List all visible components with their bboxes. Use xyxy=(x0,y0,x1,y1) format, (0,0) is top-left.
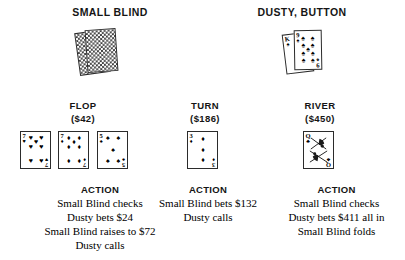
card-back-icon xyxy=(85,28,119,73)
pot-size-river: ($450) xyxy=(265,113,375,125)
playing-card-nine-spades: 9 ♠ ♠ ♠ ♠ ♠ ♠ ♠ ♠ ♠ ♠ 9 ♠ xyxy=(294,30,323,70)
card-corner-bottom: Q ♣ xyxy=(326,156,331,168)
player-label-small-blind: SMALL BLIND xyxy=(30,6,190,19)
action-label: ACTION xyxy=(148,184,268,195)
spade-icon: ♠ xyxy=(311,57,315,64)
action-line: Dusty calls xyxy=(148,210,268,224)
player-block-small-blind: SMALL BLIND xyxy=(30,6,190,87)
hole-cards-small-blind xyxy=(30,25,190,87)
heart-icon: ♥ xyxy=(29,134,33,141)
card-corner-bottom: 7 ♥ xyxy=(45,156,48,168)
card-corner-bottom: 3 ♦ xyxy=(212,156,215,168)
spade-icon: ♠ xyxy=(316,56,319,62)
diamond-icon: ♦ xyxy=(67,144,71,151)
playing-card-five-spades: 5 ♠ ♠ ♠ ♠ ♠ ♠ 5 ♠ xyxy=(97,131,128,169)
heart-icon: ♥ xyxy=(34,139,38,146)
street-label-turn: TURN xyxy=(155,100,255,112)
heart-icon: ♥ xyxy=(45,156,48,162)
street-label-flop: FLOP xyxy=(18,100,148,112)
card-corner-bottom: 5 ♠ xyxy=(122,156,125,168)
diamond-icon: ♦ xyxy=(78,144,82,151)
diamond-icon: ♦ xyxy=(67,157,71,164)
action-line: Small Blind raises to $72 xyxy=(0,224,200,238)
spade-icon: ♠ xyxy=(122,156,125,162)
spade-icon: ♠ xyxy=(111,147,115,154)
diamond-icon: ♦ xyxy=(67,134,71,141)
board-cards-river: Q ♣ xyxy=(265,130,375,172)
pot-size-flop: ($42) xyxy=(18,113,148,125)
playing-card-seven-diamonds: 7 ♦ ♦ ♦ ♦ ♦ ♦ ♦ ♦ 7 ♦ xyxy=(58,131,89,169)
street-block-flop: FLOP ($42) 7 ♥ ♥ ♥ ♥ ♥ ♥ ♥ ♥ 7 xyxy=(18,100,148,172)
diamond-icon: ♦ xyxy=(201,157,205,164)
board-cards-turn: 3 ♦ ♦ ♦ ♦ 3 ♦ xyxy=(155,130,255,172)
playing-card-three-diamonds: 3 ♦ ♦ ♦ ♦ 3 ♦ xyxy=(187,131,218,169)
spade-icon: ♠ xyxy=(106,135,110,142)
hole-cards-dusty: K ♠ K ♠ 9 ♠ ♠ ♠ ♠ ♠ ♠ xyxy=(222,25,382,87)
playing-card-queen-clubs: Q ♣ xyxy=(303,131,334,169)
diamond-icon: ♦ xyxy=(72,139,76,146)
action-line: Dusty calls xyxy=(0,238,200,252)
spade-icon: ♠ xyxy=(106,157,110,164)
card-corner-top: K ♠ xyxy=(284,36,290,48)
street-label-river: RIVER xyxy=(265,100,375,112)
poker-hand-diagram: SMALL BLIND DUSTY, BUTTON K ♠ K ♠ xyxy=(0,0,405,260)
spade-icon: ♠ xyxy=(302,57,306,64)
action-block-turn: ACTION Small Blind bets $132 Dusty calls xyxy=(148,184,268,224)
action-line: Dusty bets $411 all in xyxy=(268,210,405,224)
card-corner-bottom: 9 ♠ xyxy=(316,56,319,68)
board-cards-flop: 7 ♥ ♥ ♥ ♥ ♥ ♥ ♥ ♥ 7 ♥ xyxy=(18,130,148,172)
diamond-icon: ♦ xyxy=(83,156,86,162)
action-line: Small Blind folds xyxy=(268,224,405,238)
card-corner-bottom: 7 ♦ xyxy=(83,156,86,168)
playing-card-seven-hearts: 7 ♥ ♥ ♥ ♥ ♥ ♥ ♥ ♥ 7 ♥ xyxy=(20,131,51,169)
diamond-icon: ♦ xyxy=(78,157,82,164)
diamond-icon: ♦ xyxy=(201,147,205,154)
action-label: ACTION xyxy=(268,184,405,195)
street-block-river: RIVER ($450) Q ♣ xyxy=(265,100,375,172)
heart-icon: ♥ xyxy=(29,157,33,164)
heart-icon: ♥ xyxy=(39,134,43,141)
diamond-icon: ♦ xyxy=(212,156,215,162)
heart-icon: ♥ xyxy=(29,144,33,151)
street-block-turn: TURN ($186) 3 ♦ ♦ ♦ ♦ 3 ♦ xyxy=(155,100,255,172)
player-block-dusty: DUSTY, BUTTON K ♠ K ♠ 9 ♠ xyxy=(222,6,382,87)
action-line: Small Blind bets $132 xyxy=(148,196,268,210)
diamond-icon: ♦ xyxy=(78,134,82,141)
spade-icon: ♠ xyxy=(116,135,120,142)
action-line: Small Blind checks xyxy=(268,196,405,210)
diamond-icon: ♦ xyxy=(201,136,205,143)
action-block-river: ACTION Small Blind checks Dusty bets $41… xyxy=(268,184,405,238)
player-label-dusty: DUSTY, BUTTON xyxy=(222,6,382,19)
heart-icon: ♥ xyxy=(39,144,43,151)
spade-icon: ♠ xyxy=(306,46,310,53)
spade-icon: ♠ xyxy=(116,157,120,164)
spade-icon: ♠ xyxy=(285,42,291,48)
heart-icon: ♥ xyxy=(39,157,43,164)
pot-size-turn: ($186) xyxy=(155,113,255,125)
